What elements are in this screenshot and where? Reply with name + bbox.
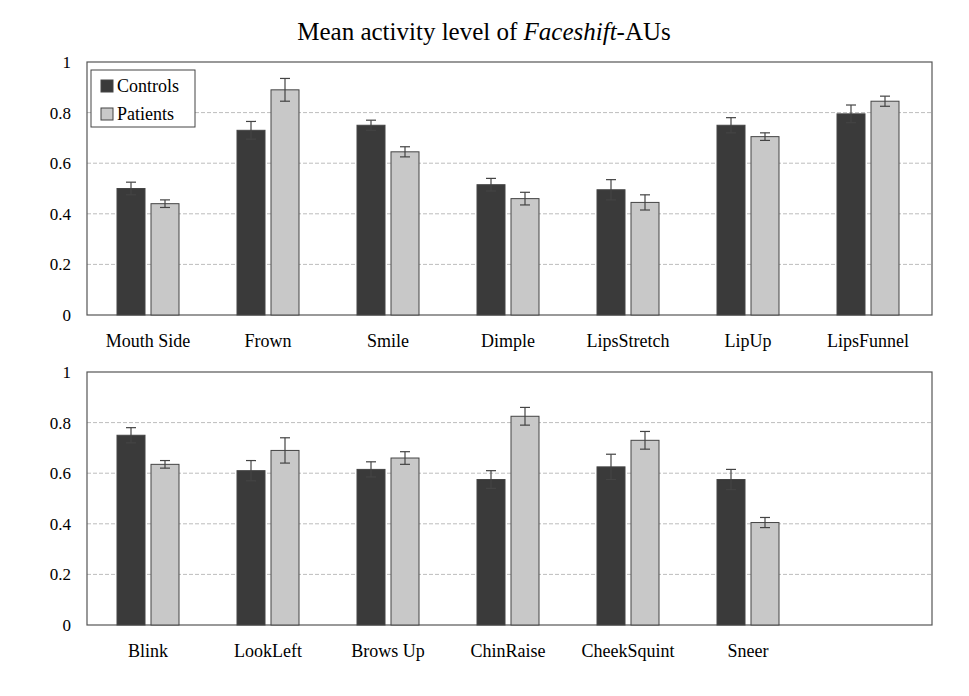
- legend-swatch-patients: [101, 108, 113, 120]
- bar-controls: [477, 185, 505, 315]
- x-category-label: LookLeft: [234, 641, 302, 661]
- bar-controls: [717, 480, 745, 625]
- bar-patients: [511, 416, 539, 625]
- bar-controls: [237, 471, 265, 625]
- bar-controls: [837, 114, 865, 315]
- bar-controls: [117, 435, 145, 625]
- y-tick-label: 0.8: [50, 414, 71, 433]
- bar-controls: [357, 125, 385, 315]
- bar-controls: [597, 190, 625, 315]
- bar-patients: [511, 199, 539, 315]
- bar-patients: [151, 204, 179, 315]
- y-tick-label: 1: [63, 363, 72, 382]
- legend: ControlsPatients: [91, 70, 195, 127]
- bar-patients: [751, 523, 779, 625]
- y-tick-label: 0.2: [50, 255, 71, 274]
- bar-controls: [237, 130, 265, 315]
- x-category-label: LipsFunnel: [827, 331, 909, 351]
- x-category-label: Smile: [367, 331, 409, 351]
- x-category-label: Mouth Side: [106, 331, 191, 351]
- plot-area: [87, 62, 932, 315]
- x-category-label: Brows Up: [351, 641, 425, 661]
- legend-label-controls: Controls: [117, 76, 179, 96]
- x-category-label: CheekSquint: [582, 641, 675, 661]
- y-tick-label: 0.6: [50, 464, 71, 483]
- legend-label-patients: Patients: [117, 104, 174, 124]
- bar-patients: [151, 464, 179, 625]
- chart-panel-top: 00.20.40.60.81Mouth SideFrownSmileDimple…: [50, 53, 932, 351]
- y-tick-label: 0.6: [50, 154, 71, 173]
- bar-controls: [717, 125, 745, 315]
- x-category-label: ChinRaise: [471, 641, 546, 661]
- plot-area: [87, 372, 932, 625]
- x-category-label: Dimple: [481, 331, 535, 351]
- bar-patients: [631, 440, 659, 625]
- chart-title: Mean activity level of Faceshift-AUs: [297, 18, 671, 45]
- y-tick-label: 0.4: [50, 205, 72, 224]
- bar-patients: [271, 90, 299, 315]
- bar-patients: [871, 101, 899, 315]
- bar-patients: [271, 450, 299, 625]
- y-tick-label: 0.8: [50, 104, 71, 123]
- legend-swatch-controls: [101, 80, 113, 92]
- x-category-label: LipUp: [725, 331, 772, 351]
- y-tick-label: 0: [63, 306, 72, 325]
- y-tick-label: 0.2: [50, 565, 71, 584]
- x-category-label: LipsStretch: [587, 331, 670, 351]
- y-tick-label: 1: [63, 53, 72, 72]
- bar-patients: [391, 458, 419, 625]
- bar-patients: [751, 137, 779, 315]
- x-category-label: Blink: [128, 641, 168, 661]
- bar-controls: [597, 467, 625, 625]
- bar-controls: [477, 480, 505, 625]
- chart-panel-bottom: 00.20.40.60.81BlinkLookLeftBrows UpChinR…: [50, 363, 932, 661]
- x-category-label: Sneer: [728, 641, 769, 661]
- y-tick-label: 0.4: [50, 515, 72, 534]
- bar-chart: Mean activity level of Faceshift-AUs 00.…: [0, 0, 969, 696]
- bar-controls: [117, 189, 145, 316]
- bar-controls: [357, 469, 385, 625]
- bar-patients: [391, 152, 419, 315]
- bar-patients: [631, 202, 659, 315]
- y-tick-label: 0: [63, 616, 72, 635]
- x-category-label: Frown: [244, 331, 291, 351]
